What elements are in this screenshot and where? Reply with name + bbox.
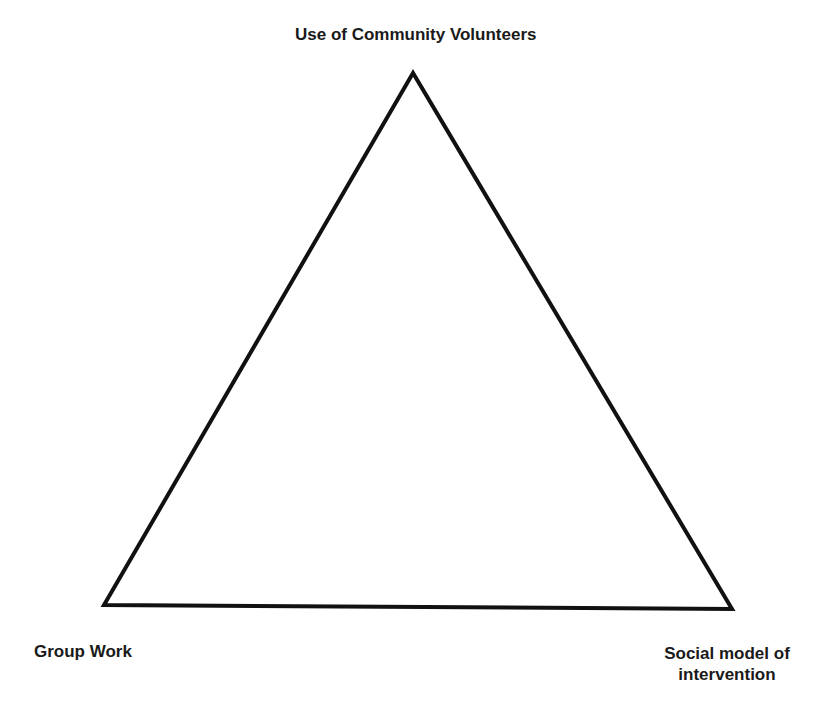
triangle-shape [104, 73, 732, 609]
vertex-label-top: Use of Community Volunteers [295, 24, 537, 45]
triangle-diagram [0, 0, 819, 714]
vertex-label-bottom-right-line1: Social model of [650, 643, 804, 664]
vertex-label-bottom-right: Social model of intervention [650, 643, 804, 685]
vertex-label-bottom-left: Group Work [34, 641, 132, 662]
vertex-label-bottom-right-line2: intervention [650, 664, 804, 685]
